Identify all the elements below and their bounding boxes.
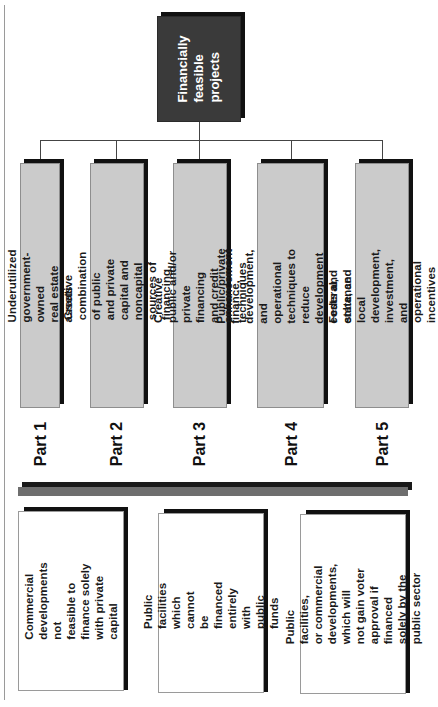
technique-box-part-2: Creative combination of public and priva… <box>90 163 144 408</box>
part-label-3: Part 3 <box>191 422 209 466</box>
project-type-text: Public facilities which cannot be financ… <box>141 577 281 629</box>
page-margin-line <box>4 5 5 700</box>
project-type-text: Public facilities, or commercial develop… <box>283 564 423 645</box>
root-box: Financially feasible projects <box>157 16 241 122</box>
technique-text: Federal, state, and local development, i… <box>326 248 438 322</box>
root-connector <box>199 122 200 140</box>
technique-box-part-1: Underutilized government-owned real esta… <box>20 163 60 408</box>
project-type-text: Commercial developments not feasible to … <box>22 562 120 639</box>
project-type-box-1: Commercial developments not feasible to … <box>18 511 124 691</box>
divider-bar <box>18 487 408 496</box>
part-label-4: Part 4 <box>283 422 301 466</box>
technique-box-part-4: Public/private finance, development, and… <box>257 163 324 408</box>
branch-connector <box>40 140 383 141</box>
project-type-box-3: Public facilities, or commercial develop… <box>300 514 406 694</box>
part-label-1: Part 1 <box>32 422 50 466</box>
part-label-5: Part 5 <box>374 422 392 466</box>
root-box-label: Financially feasible projects <box>175 35 223 102</box>
technique-box-part-5: Federal, state, and local development, i… <box>355 163 409 408</box>
part-label-2: Part 2 <box>108 422 126 466</box>
project-type-box-2: Public facilities which cannot be financ… <box>158 513 264 693</box>
